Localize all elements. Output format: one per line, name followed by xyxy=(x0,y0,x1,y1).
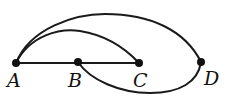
node-b xyxy=(74,58,82,66)
label-a: A xyxy=(5,69,21,91)
label-b: B xyxy=(67,69,82,91)
node-c xyxy=(135,59,143,67)
node-d xyxy=(197,58,205,66)
label-c: C xyxy=(133,69,148,91)
edge-a-d-arc xyxy=(16,14,201,63)
node-a xyxy=(12,59,20,67)
label-d: D xyxy=(203,67,219,89)
graph-diagram: A B C D xyxy=(0,0,229,103)
